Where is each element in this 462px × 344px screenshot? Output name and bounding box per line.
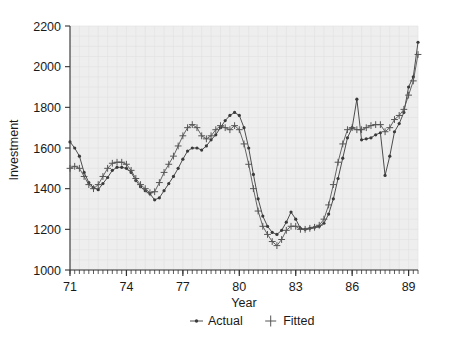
data-point xyxy=(238,114,241,117)
data-point xyxy=(294,218,297,221)
y-tick-label: 1400 xyxy=(33,182,61,196)
data-point xyxy=(106,176,109,179)
data-point xyxy=(195,146,198,149)
x-tick-label: 83 xyxy=(289,280,303,294)
data-point xyxy=(97,188,100,191)
data-point xyxy=(247,146,250,149)
investment-line-chart: 1000120014001600180020002200 71747780838… xyxy=(0,0,462,344)
data-point xyxy=(115,166,118,169)
data-point xyxy=(214,133,217,136)
data-point xyxy=(407,85,410,88)
data-point xyxy=(398,122,401,125)
data-point xyxy=(365,137,368,140)
data-point xyxy=(388,155,391,158)
data-point xyxy=(177,167,180,170)
data-point xyxy=(261,215,264,218)
y-tick-label: 1200 xyxy=(33,223,61,237)
data-point xyxy=(280,229,283,232)
data-point xyxy=(252,173,255,176)
data-point xyxy=(369,136,372,139)
data-point xyxy=(285,221,288,224)
data-point xyxy=(228,114,231,117)
x-tick-label: 71 xyxy=(63,280,77,294)
data-point xyxy=(393,130,396,133)
data-point xyxy=(271,231,274,234)
data-point xyxy=(374,133,377,136)
data-point xyxy=(158,196,161,199)
data-point xyxy=(162,189,165,192)
data-point xyxy=(266,225,269,228)
data-point xyxy=(360,138,363,141)
data-point xyxy=(68,140,71,143)
y-tick-label: 1600 xyxy=(33,142,61,156)
data-point xyxy=(205,144,208,147)
data-point xyxy=(181,158,184,161)
data-point xyxy=(101,182,104,185)
legend-label: Actual xyxy=(208,314,243,328)
data-point xyxy=(416,41,419,44)
x-tick-label: 77 xyxy=(176,280,190,294)
data-point xyxy=(332,197,335,200)
data-point xyxy=(153,198,156,201)
x-tick-label: 89 xyxy=(402,280,416,294)
data-point xyxy=(327,212,330,215)
legend-label: Fitted xyxy=(283,314,314,328)
x-tick-label: 80 xyxy=(232,280,246,294)
data-point xyxy=(78,155,81,158)
x-tick-label: 74 xyxy=(119,280,133,294)
data-point xyxy=(346,136,349,139)
data-point xyxy=(167,182,170,185)
data-point xyxy=(200,148,203,151)
x-axis-title: Year xyxy=(231,296,256,310)
data-point xyxy=(355,98,358,101)
y-tick-label: 2200 xyxy=(33,20,61,34)
data-point xyxy=(289,210,292,213)
data-point xyxy=(341,157,344,160)
data-point xyxy=(73,146,76,149)
x-tick-label: 86 xyxy=(345,280,359,294)
y-axis-title: Investment xyxy=(7,119,21,181)
data-point xyxy=(111,169,114,172)
data-point xyxy=(172,175,175,178)
data-point xyxy=(186,149,189,152)
data-point xyxy=(242,126,245,129)
data-point xyxy=(191,146,194,149)
data-point xyxy=(379,131,382,134)
y-tick-label: 1000 xyxy=(33,264,61,278)
y-tick-label: 1800 xyxy=(33,101,61,115)
data-point xyxy=(275,233,278,236)
data-point xyxy=(257,197,260,200)
data-point xyxy=(233,111,236,114)
data-point xyxy=(336,177,339,180)
y-tick-label: 2000 xyxy=(33,60,61,74)
data-point xyxy=(120,166,123,169)
data-point xyxy=(383,174,386,177)
data-point xyxy=(224,119,227,122)
